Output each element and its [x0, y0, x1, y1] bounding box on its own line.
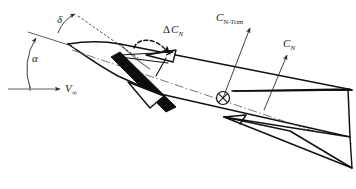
cn-trim-subscript: N-Trim	[224, 18, 244, 25]
cn-trim-label-group: C N-Trim	[216, 11, 243, 25]
delta-cn-leader-line	[156, 58, 166, 76]
tail-lower-fin	[224, 117, 352, 168]
body-centerline	[72, 50, 352, 144]
freestream-velocity-label-group: V ∞	[65, 82, 77, 97]
force-vector-group	[223, 28, 287, 110]
fuselage-aft-base	[348, 89, 350, 137]
freestream-velocity-subscript: ∞	[72, 89, 77, 97]
tail-upper-fin-leading-edge	[234, 90, 352, 91]
cn-force-arrow	[264, 55, 287, 110]
angle-of-attack-label: α	[32, 52, 38, 64]
canard-chord-extension-dashed	[78, 16, 138, 58]
body-axis-reference-line	[28, 32, 72, 46]
delta-cn-prefix: Δ	[163, 23, 170, 35]
canard-deflection-angle-label: δ	[57, 13, 63, 25]
delta-cn-subscript: N	[178, 30, 184, 38]
canard-deflection-group	[58, 14, 138, 58]
tail-fin-group	[224, 89, 352, 168]
canard-fin-group	[111, 50, 176, 112]
delta-cn-label-group: Δ C N	[163, 23, 184, 38]
diagram-canvas: α δ V ∞ Δ C N C N-Trim C N	[0, 0, 356, 189]
missile-aerodynamics-diagram: α δ V ∞ Δ C N C N-Trim C N	[0, 0, 356, 189]
cn-subscript: N	[290, 44, 296, 52]
fuselage-upper-contour	[68, 42, 348, 89]
cn-label-group: C N	[283, 37, 296, 52]
cn-trim-force-arrow	[223, 28, 250, 98]
